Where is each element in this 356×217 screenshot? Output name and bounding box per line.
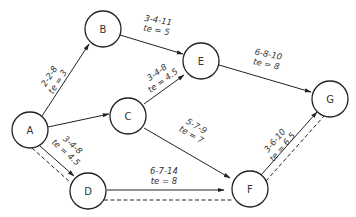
edge-labels: 2-2-8 te = 3 3-4-8 te = 4.5 3-4-11 te = … [38, 13, 298, 186]
node-g: G [312, 81, 348, 117]
edge-b-e [120, 35, 183, 54]
node-f-label: F [247, 184, 253, 195]
node-e-label: E [198, 56, 204, 67]
node-c: C [110, 98, 146, 134]
edge-d-f-te: te = 8 [151, 176, 178, 186]
node-e: E [183, 43, 219, 79]
pert-network-diagram: 2-2-8 te = 3 3-4-8 te = 4.5 3-4-11 te = … [0, 0, 356, 217]
edge-e-g [219, 65, 311, 92]
node-g-label: G [326, 94, 334, 105]
node-c-label: C [125, 111, 132, 122]
node-f: F [232, 171, 268, 207]
node-d-label: D [84, 186, 92, 197]
node-b: B [85, 11, 121, 47]
edge-d-f-estimate: 6-7-14 [150, 166, 178, 176]
node-d: D [70, 173, 106, 209]
nodes: A B C D E F G [12, 11, 348, 209]
node-a-label: A [27, 125, 34, 136]
node-a: A [12, 112, 48, 148]
node-b-label: B [100, 24, 107, 35]
edge-a-c [48, 114, 109, 127]
